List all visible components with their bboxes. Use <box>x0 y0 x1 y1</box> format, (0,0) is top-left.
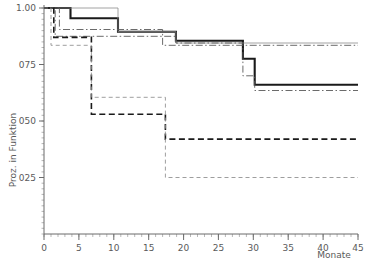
x-tick-label: 5 <box>76 243 82 253</box>
x-tick-label: 0 <box>41 243 47 253</box>
x-tick-label: 15 <box>143 243 154 253</box>
x-axis-title: Monate <box>317 250 351 260</box>
x-axis-tick-labels: 051015202530354045 <box>41 243 364 253</box>
y-tick-label: 075 <box>19 60 36 70</box>
x-tick-label: 45 <box>352 243 363 253</box>
curve-thin-dashed <box>44 8 358 178</box>
x-tick-label: 10 <box>108 243 120 253</box>
x-axis-major-ticks <box>44 234 358 240</box>
x-tick-label: 20 <box>178 243 190 253</box>
x-tick-label: 35 <box>282 243 293 253</box>
x-tick-label: 25 <box>213 243 224 253</box>
y-tick-label: 050 <box>19 116 36 126</box>
survival-chart: 0250500751.00 051015202530354045 Proz. i… <box>0 0 369 267</box>
series-paths <box>44 8 358 178</box>
x-tick-label: 30 <box>248 243 260 253</box>
chart-canvas: 0250500751.00 051015202530354045 Proz. i… <box>0 0 369 267</box>
y-tick-label: 1.00 <box>16 3 36 13</box>
y-axis-tick-labels: 0250500751.00 <box>16 3 36 183</box>
y-axis-title: Proz. in Funktion <box>8 113 18 187</box>
y-tick-label: 025 <box>19 173 36 183</box>
